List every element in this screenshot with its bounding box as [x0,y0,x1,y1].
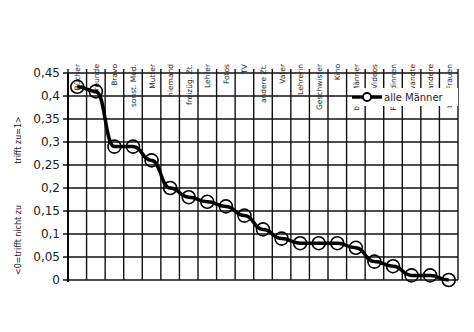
x-category-label: Mutter [148,63,157,89]
y-axis-title-bottom: <0=trifft nicht zu [14,205,23,275]
y-tick-label: 0,3 [41,135,60,149]
legend: alle Männer [352,88,458,106]
y-tick-label: 0,15 [33,204,60,218]
y-tick-label: 0,35 [33,112,60,126]
y-tick-label: 0,25 [33,158,60,172]
x-category-label: Fotos [222,64,231,84]
x-category-label: Kino [333,64,342,81]
x-category-label: sonst. Med. [129,64,138,107]
legend-marker-icon [363,93,371,101]
x-category-label: niemand [166,64,175,97]
x-category-label: Videos [370,64,379,89]
y-tick-label: 0,4 [41,89,60,103]
x-category-label: andere Zt. [259,64,268,103]
y-axis-title: trifft zu=1> <0=trifft nicht zu [14,116,23,275]
y-tick-label: 0 [52,273,60,287]
y-axis: 00,050,10,150,20,250,30,350,40,45 [33,66,68,287]
x-category-label: Bravo [110,64,119,86]
y-tick-label: 0,2 [41,181,60,195]
x-category-label: TV [240,63,249,75]
x-category-label: Geschwister [315,63,324,110]
y-axis-title-top: trifft zu=1> [14,116,23,164]
x-category-label: freizüg. Zt. [185,64,194,105]
x-category-label: Lehrerin [296,64,305,95]
x-category-label: Lehrer [203,63,212,88]
x-category-label: Vater [278,63,287,84]
y-tick-label: 0,45 [33,66,60,80]
y-tick-label: 0,05 [33,250,60,264]
line-chart: 00,050,10,150,20,250,30,350,40,45 Bücher… [0,0,474,332]
x-category-label: andere [426,64,435,91]
legend-label: alle Männer [384,92,444,103]
y-tick-label: 0,1 [41,227,60,241]
series-line [77,87,448,280]
